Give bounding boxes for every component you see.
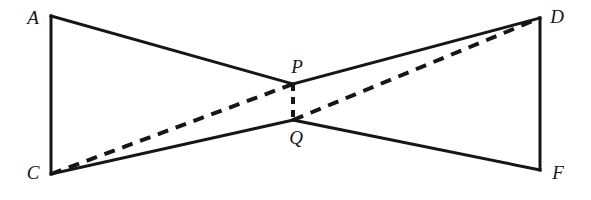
vertex-label-f: F	[552, 163, 564, 182]
segment-C-Q	[51, 120, 293, 174]
segment-A-P	[51, 16, 293, 84]
vertex-label-c: C	[27, 163, 40, 182]
vertex-label-d: D	[550, 7, 564, 26]
vertex-label-q: Q	[289, 128, 303, 147]
segment-Q-F	[293, 120, 540, 170]
vertex-label-p: P	[291, 57, 303, 76]
segment-P-D	[293, 18, 540, 84]
segment-Q-D-dashed	[293, 18, 540, 120]
geometry-figure: A C D F P Q	[0, 0, 591, 200]
vertex-label-a: A	[27, 8, 39, 27]
figure-canvas	[0, 0, 591, 200]
